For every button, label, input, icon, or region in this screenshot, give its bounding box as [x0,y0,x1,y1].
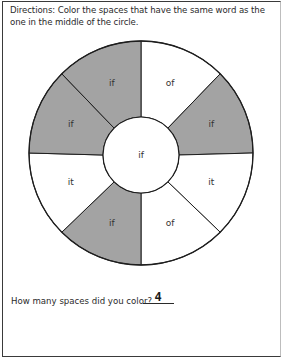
segment-word: it [208,177,215,187]
segment-word: it [68,177,75,187]
segment-word: if [109,78,116,88]
segment-word: of [166,78,176,88]
center-word: if [138,150,145,160]
segment-word: if [68,119,75,129]
segment-word: if [109,218,116,228]
segment-word: of [166,218,176,228]
answer-value: 4 [150,290,166,304]
word-wheel: if ofifitofifitifif [0,0,284,363]
segment-word: if [208,119,215,129]
question-text: How many spaces did you color? [11,296,152,306]
